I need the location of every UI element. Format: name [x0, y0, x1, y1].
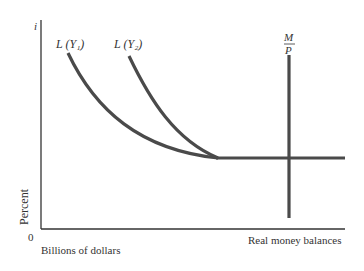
y-axis-label: Percent — [17, 188, 31, 225]
curve-L-Y1 — [68, 53, 218, 158]
origin-label: 0 — [28, 231, 34, 243]
supply-denominator: P — [284, 44, 292, 56]
y-axis-symbol: i — [34, 20, 37, 32]
curve-L-Y2 — [129, 56, 218, 158]
supply-numerator: M — [283, 31, 294, 43]
x-axis-label: Real money balances — [248, 234, 341, 246]
liquidity-trap-diagram: i L (Y₁) L (Y₂) M P Percent 0 Billions o… — [0, 0, 364, 271]
x-axis-unit-label: Billions of dollars — [41, 244, 120, 256]
curve-label-L-Y2: L (Y₂) — [113, 37, 142, 51]
curve-label-L-Y1: L (Y₁) — [55, 37, 84, 51]
